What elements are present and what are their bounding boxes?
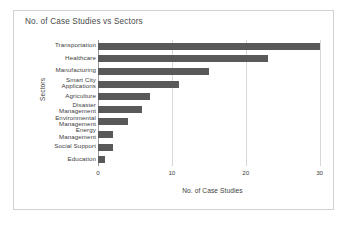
x-axis-tick-label: 30 <box>316 169 323 176</box>
y-axis-tick-label-line: Agriculture <box>24 93 96 99</box>
y-axis-tick-label-line: Manufacturing <box>24 67 96 73</box>
bar <box>98 68 209 75</box>
y-axis-tick-labels: TransportationHealthcareManufacturingSma… <box>22 40 96 166</box>
y-axis-tick-label: Social Support <box>24 143 96 149</box>
y-axis-tick-label-line: Social Support <box>24 143 96 149</box>
bar <box>98 118 128 125</box>
plot-area <box>98 40 327 166</box>
bar <box>98 81 179 88</box>
y-axis-tick-label: Healthcare <box>24 55 96 61</box>
y-axis-tick-label: Transportation <box>24 42 96 48</box>
x-axis-tick-label: 0 <box>96 169 99 176</box>
y-axis-tick-label: Agriculture <box>24 93 96 99</box>
chart-title: No. of Case Studies vs Sectors <box>25 17 143 26</box>
x-axis-tick-label: 10 <box>168 169 175 176</box>
y-axis-tick-label: DisasterManagement <box>24 102 96 115</box>
y-axis-tick-label: EnergyManagement <box>24 127 96 140</box>
bar <box>98 43 320 50</box>
y-axis-tick-label-line: Healthcare <box>24 55 96 61</box>
x-axis-tick-label: 20 <box>242 169 249 176</box>
bar <box>98 93 150 100</box>
y-axis-tick-label-line: Education <box>24 156 96 162</box>
y-axis-tick-label: Education <box>24 156 96 162</box>
bar <box>98 106 142 113</box>
y-axis-tick-label-line: Management <box>24 134 96 140</box>
y-axis-tick-label-line: Applications <box>24 83 96 89</box>
bar <box>98 144 113 151</box>
y-axis-tick-label: Smart CityApplications <box>24 77 96 90</box>
bar <box>98 55 268 62</box>
gridline <box>320 40 321 166</box>
x-axis-title: No. of Case Studies <box>98 187 327 194</box>
bar <box>98 156 105 163</box>
chart-figure: No. of Case Studies vs Sectors Transport… <box>0 0 346 225</box>
y-axis-title: Sectors <box>39 68 46 112</box>
y-axis-tick-label-line: Transportation <box>24 42 96 48</box>
y-axis-tick-label: Manufacturing <box>24 67 96 73</box>
x-axis-tick-labels: 0102030 <box>98 169 327 179</box>
bar <box>98 131 113 138</box>
